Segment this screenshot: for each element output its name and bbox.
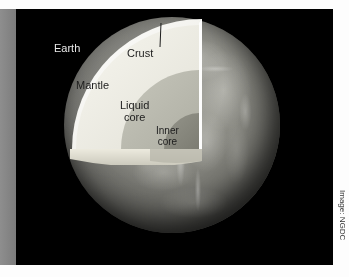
figure-plate: Earth Crust Mantle Liquid core Inner cor… xyxy=(16,9,333,265)
cut-plane-face xyxy=(70,149,202,165)
label-liquid-core-line2: core xyxy=(120,112,149,124)
label-liquid-core: Liquid core xyxy=(120,100,149,124)
left-gray-bar xyxy=(0,9,16,265)
image-credit: Image: NGDC xyxy=(335,190,349,270)
label-crust: Crust xyxy=(127,48,153,60)
label-inner-core: Inner core xyxy=(156,126,179,148)
figure-page: Earth Crust Mantle Liquid core Inner cor… xyxy=(0,0,349,277)
label-inner-core-line2: core xyxy=(156,137,179,148)
wedge-right-edge xyxy=(199,19,202,149)
label-earth: Earth xyxy=(54,43,80,55)
cutaway-wedge xyxy=(48,13,228,165)
image-credit-text: Image: NGDC xyxy=(338,190,347,240)
label-mantle: Mantle xyxy=(76,80,109,92)
